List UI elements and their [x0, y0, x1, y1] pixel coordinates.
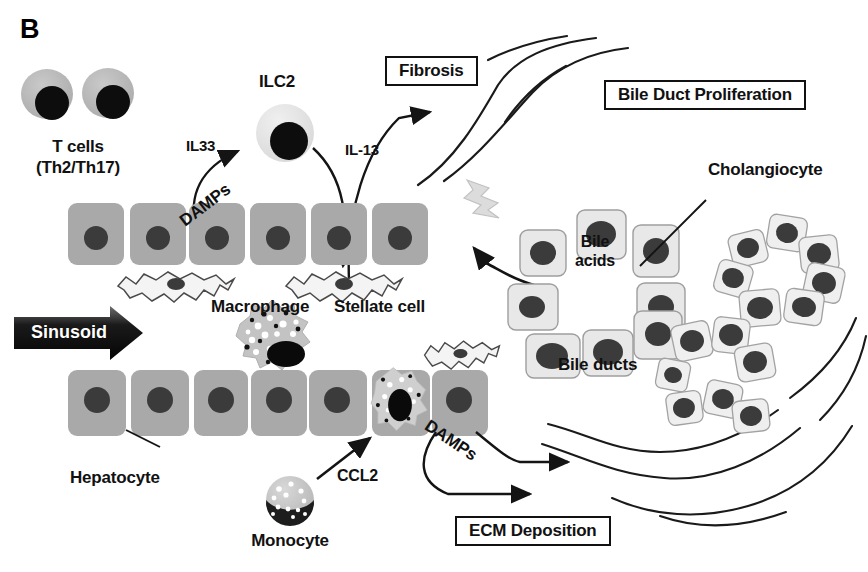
- hepatocyte: [194, 370, 248, 436]
- monocyte-cell: [266, 476, 314, 526]
- ecm-deposition-box: ECM Deposition: [455, 516, 611, 546]
- cholangiocyte: [733, 342, 777, 383]
- cholangiocyte: [731, 398, 770, 434]
- ilc2-cell: [256, 104, 314, 162]
- ilc2-label: ILC2: [259, 72, 295, 91]
- t-cells-label-line2: (Th2/Th17): [14, 158, 142, 177]
- cholangiocyte: [520, 230, 566, 276]
- cholangiocyte: [783, 288, 825, 327]
- sinusoid-arrow: [14, 306, 143, 360]
- hepatocyte-label: Hepatocyte: [70, 468, 160, 487]
- cholangiocyte-label: Cholangiocyte: [708, 160, 823, 179]
- t-cell-group: [21, 68, 134, 120]
- fibrosis-box: Fibrosis: [385, 56, 478, 86]
- t-cell: [82, 68, 134, 119]
- panel-letter: B: [20, 14, 40, 44]
- il33-label: IL33: [186, 138, 215, 155]
- cholangiocyte: [508, 284, 558, 330]
- t-cell: [21, 69, 73, 120]
- il13-label: IL-13: [345, 142, 379, 159]
- cholangiocyte: [665, 390, 704, 427]
- stellate-cell: [425, 341, 500, 369]
- bile-ducts-label: Bile ducts: [558, 355, 637, 374]
- hepatocyte: [131, 370, 189, 436]
- hepatocyte: [250, 203, 306, 265]
- bile-duct-proliferation-box: Bile Duct Proliferation: [604, 80, 806, 110]
- cholangiocyte: [654, 357, 691, 393]
- hepatocyte: [68, 203, 124, 265]
- lightning-bolt-icon: [464, 180, 499, 218]
- cholangiocyte: [670, 319, 715, 362]
- hepatocyte: [309, 370, 367, 436]
- ccl2-label: CCL2: [337, 467, 378, 485]
- bile-acids-label-line2: acids: [562, 252, 628, 270]
- stellate-cell-label: Stellate cell: [334, 297, 425, 316]
- figure-panel-b: B T cells (Th2/Th17) ILC2 IL33 IL-13 DAM…: [0, 0, 868, 572]
- hepatocyte-row-top: [68, 203, 428, 265]
- hepatocyte: [372, 203, 428, 265]
- monocyte-label: Monocyte: [240, 531, 340, 550]
- bile-duct-cluster-upper: [712, 213, 846, 327]
- hepatocyte: [251, 370, 307, 436]
- t-cells-label-line1: T cells: [14, 137, 142, 156]
- bile-acids-label-line1: Bile: [562, 233, 628, 251]
- bile-duct-cluster-lower: [654, 316, 776, 434]
- hepatocyte: [311, 203, 367, 265]
- hepatocyte: [68, 370, 126, 436]
- macrophage-label: Macrophage: [211, 297, 309, 316]
